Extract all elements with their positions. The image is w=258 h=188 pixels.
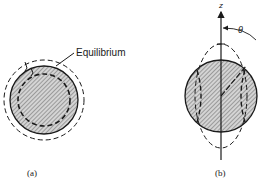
equilibrium-label: Equilibrium xyxy=(76,47,125,58)
theta-arrowhead xyxy=(223,26,228,31)
figure-a-caption: (a) xyxy=(27,168,37,178)
z-axis-label: z xyxy=(218,1,223,10)
figure-b-quadrupole-mode: z θ (b) xyxy=(185,1,257,178)
figure-a-radial-mode: Equilibrium (a) xyxy=(4,47,125,178)
figure-b-caption: (b) xyxy=(215,168,226,178)
theta-label: θ xyxy=(238,25,243,35)
oscillation-modes-diagram: Equilibrium (a) z θ (b) xyxy=(0,0,258,188)
equilibrium-body xyxy=(10,66,78,134)
equilibrium-leader-line xyxy=(56,53,74,66)
